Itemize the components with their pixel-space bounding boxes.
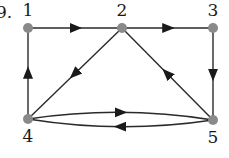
edge-5-to-2 — [122, 28, 213, 120]
node-label-2: 2 — [117, 2, 128, 19]
directed-graph — [0, 0, 229, 158]
node-2 — [117, 23, 127, 33]
node-1 — [23, 23, 33, 33]
arrow-icon — [167, 73, 168, 74]
node-label-3: 3 — [208, 2, 219, 19]
edge-2-to-4 — [28, 28, 122, 119]
node-3 — [208, 23, 218, 33]
edge-5-to-4 — [28, 119, 213, 127]
arrow-icon — [74, 73, 75, 74]
node-label-4: 4 — [23, 128, 34, 145]
edge-4-to-5 — [28, 112, 213, 120]
node-label-5: 5 — [208, 129, 219, 146]
node-5 — [208, 115, 218, 125]
node-4 — [23, 114, 33, 124]
node-label-1: 1 — [23, 2, 34, 19]
